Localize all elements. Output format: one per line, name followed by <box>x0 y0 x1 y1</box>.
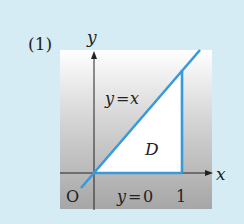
svg-text:y: y <box>104 89 115 108</box>
region-diagram: (1) y x O 1 y = x y = 0 D <box>0 0 244 224</box>
svg-text:0: 0 <box>143 187 153 206</box>
curve-label-y-equals-x: y = x <box>104 89 139 108</box>
y-axis-label: y <box>86 27 97 47</box>
problem-label: (1) <box>28 34 52 54</box>
svg-text:y: y <box>116 187 127 206</box>
curve-label-y-equals-0: y = 0 <box>116 187 153 206</box>
x-axis-label: x <box>216 164 226 184</box>
origin-label: O <box>66 187 79 206</box>
tick-label-one: 1 <box>176 187 186 206</box>
svg-text:x: x <box>130 89 139 108</box>
svg-text:=: = <box>128 187 141 206</box>
svg-text:=: = <box>116 89 129 108</box>
region-label: D <box>144 139 159 159</box>
